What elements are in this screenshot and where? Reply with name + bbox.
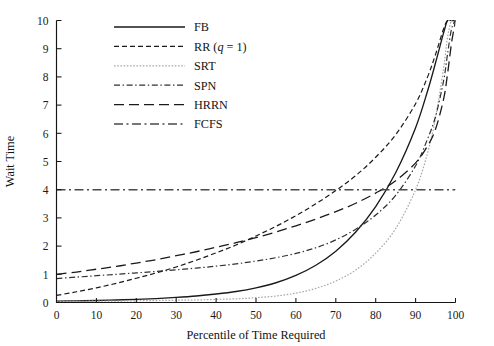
legend-item-fcfs[interactable]: FCFS — [114, 117, 223, 131]
x-tick-label: 0 — [54, 309, 60, 321]
x-tick-label: 100 — [447, 309, 465, 321]
legend-item-rr[interactable]: RR (q = 1) — [114, 40, 247, 54]
chart-legend: FBRR (q = 1)SRTSPNHRRNFCFS — [114, 20, 247, 131]
y-tick-label: 5 — [43, 156, 49, 168]
legend-label-rr: RR (q = 1) — [194, 40, 247, 54]
chart-figure: 0102030405060708090100012345678910Percen… — [0, 0, 494, 346]
legend-label-fb: FB — [194, 20, 209, 34]
curve-path — [57, 19, 456, 301]
x-tick-label: 30 — [170, 309, 182, 321]
legend-item-spn[interactable]: SPN — [114, 79, 217, 93]
chart-plot-area: 0102030405060708090100012345678910Percen… — [0, 0, 494, 346]
legend-label-fcfs: FCFS — [194, 117, 223, 131]
curve-path — [57, 20, 456, 296]
y-tick-label: 4 — [43, 184, 49, 196]
y-tick-label: 2 — [43, 240, 49, 252]
x-tick-label: 90 — [410, 309, 422, 321]
y-tick-label: 3 — [43, 212, 49, 224]
curve-spn — [57, 21, 456, 279]
legend-label-spn: SPN — [194, 79, 217, 93]
curve-path — [57, 21, 456, 279]
y-tick-label: 8 — [43, 71, 49, 83]
y-tick-label: 10 — [37, 15, 49, 27]
y-tick-label: 6 — [43, 128, 49, 140]
curve-fb — [57, 20, 456, 302]
y-tick-label: 7 — [43, 99, 49, 111]
curve-srt — [57, 19, 456, 301]
legend-label-hrrn: HRRN — [194, 98, 228, 112]
x-tick-label: 70 — [330, 309, 342, 321]
y-tick-label: 1 — [43, 269, 49, 281]
x-tick-label: 80 — [370, 309, 382, 321]
legend-label-srt: SRT — [194, 59, 216, 73]
x-tick-label: 10 — [91, 309, 103, 321]
legend-item-srt[interactable]: SRT — [114, 59, 216, 73]
curve-path — [57, 20, 456, 302]
x-tick-label: 60 — [290, 309, 302, 321]
legend-item-hrrn[interactable]: HRRN — [114, 98, 228, 112]
curve-rr — [57, 20, 456, 296]
axis-spines — [57, 21, 456, 303]
y-tick-label: 0 — [43, 297, 49, 309]
x-axis-title: Percentile of Time Required — [186, 328, 325, 342]
axes-layer — [57, 21, 456, 303]
y-tick-label: 9 — [43, 43, 49, 55]
legend-item-fb[interactable]: FB — [114, 20, 209, 34]
axis-ticks-layer — [57, 21, 456, 303]
x-tick-label: 40 — [210, 309, 222, 321]
x-tick-label: 50 — [250, 309, 262, 321]
y-axis-title: Wait Time — [3, 135, 17, 187]
x-tick-label: 20 — [131, 309, 143, 321]
curves-layer — [57, 19, 456, 301]
